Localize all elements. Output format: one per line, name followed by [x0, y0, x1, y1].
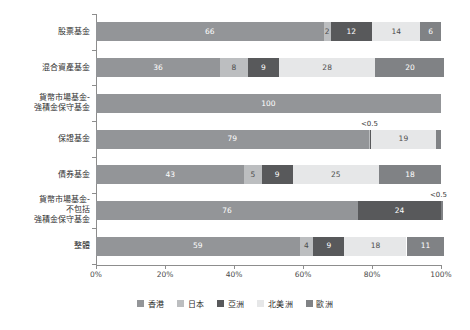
- category-label-line: 債券基金: [58, 170, 90, 180]
- bar-segment: 4: [300, 237, 314, 256]
- bar-value-label: 12: [347, 28, 357, 36]
- bar-value-label: 24: [395, 207, 405, 215]
- bar-value-label: 36: [153, 64, 163, 72]
- bar-value-label: 59: [193, 242, 203, 250]
- legend-swatch-icon: [177, 300, 184, 307]
- bar-value-label: 14: [391, 28, 401, 36]
- bar-segment: 9: [313, 237, 344, 256]
- bar-segment: 18: [379, 165, 441, 184]
- bar-segment: [441, 201, 443, 220]
- bar-value-label: 5: [251, 171, 256, 179]
- bar-value-label: 19: [399, 135, 409, 143]
- legend-label: 日本: [188, 298, 205, 309]
- category-label: 貨幣市場基金-不包括強積金保守基金: [0, 193, 90, 227]
- bar-value-label: 8: [232, 64, 237, 72]
- x-tick-label: 40%: [226, 270, 243, 279]
- bar-segment: 9: [248, 58, 279, 77]
- category-label-line: 不包括: [66, 205, 90, 215]
- x-tickmark: [234, 265, 235, 269]
- category-label-line: 保證基金: [58, 134, 90, 144]
- bar-value-label: 20: [405, 64, 415, 72]
- bar-value-label: 9: [261, 64, 266, 72]
- category-label: 保證基金: [0, 132, 90, 146]
- legend-item[interactable]: 亞洲: [217, 298, 244, 309]
- category-label-column: 股票基金混合資產基金貨幣市場基金-強積金保守基金保證基金債券基金貨幣市場基金-不…: [0, 14, 90, 264]
- x-axis-line: [96, 265, 442, 266]
- x-tickmark: [96, 265, 97, 269]
- bar-segment: 59: [96, 237, 300, 256]
- bar-segment: 43: [96, 165, 244, 184]
- bar-value-label: 4: [304, 242, 309, 250]
- bar-row: 59491811: [96, 237, 441, 256]
- x-tickmark: [303, 265, 304, 269]
- legend-item[interactable]: 香港: [137, 298, 164, 309]
- bar-segment: 79: [96, 130, 369, 149]
- x-tick-label: 60%: [295, 270, 312, 279]
- bar-row: 43592518: [96, 165, 441, 184]
- category-label: 整體: [0, 239, 90, 253]
- bar-value-label: 25: [331, 171, 341, 179]
- legend-label: 北美洲: [268, 298, 293, 309]
- x-tick-label: 80%: [364, 270, 381, 279]
- bar-value-label: 18: [405, 171, 415, 179]
- bar-segment: 9: [262, 165, 293, 184]
- legend-swatch-icon: [306, 300, 313, 307]
- category-label: 混合資產基金: [0, 61, 90, 75]
- legend-label: 香港: [148, 298, 165, 309]
- stacked-bar-chart: 股票基金混合資產基金貨幣市場基金-強積金保守基金保證基金債券基金貨幣市場基金-不…: [0, 0, 470, 330]
- value-annotation: <0.5: [430, 192, 447, 199]
- bar-row: 7624: [96, 201, 441, 220]
- bar-value-label: 9: [275, 171, 280, 179]
- bar-segment: 76: [96, 201, 358, 220]
- x-tickmark: [372, 265, 373, 269]
- bar-segment: 66: [96, 22, 324, 41]
- category-label-line: 混合資產基金: [42, 63, 90, 73]
- category-label-line: 強積金保守基金: [34, 215, 90, 225]
- bar-segment: 100: [96, 94, 441, 113]
- plot-area: 6621214636892820100791943592518762459491…: [96, 14, 441, 264]
- x-tickmark: [441, 265, 442, 269]
- legend-swatch-icon: [217, 300, 224, 307]
- category-label: 股票基金: [0, 25, 90, 39]
- bar-value-label: 79: [228, 135, 238, 143]
- category-label-line: 整體: [74, 241, 90, 251]
- bar-row: 100: [96, 94, 441, 113]
- bar-segment: 14: [372, 22, 420, 41]
- legend-swatch-icon: [137, 300, 144, 307]
- chart-legend: 香港日本亞洲北美洲歐洲: [0, 298, 470, 309]
- bar-value-label: 66: [205, 28, 215, 36]
- bar-segment: [436, 130, 441, 149]
- bar-value-label: 100: [261, 100, 275, 108]
- bar-segment: 2: [324, 22, 331, 41]
- bar-segment: 20: [375, 58, 444, 77]
- x-tickmark: [165, 265, 166, 269]
- bar-segment: 24: [358, 201, 441, 220]
- legend-item[interactable]: 日本: [177, 298, 204, 309]
- bar-value-label: 76: [222, 207, 232, 215]
- category-label-line: 股票基金: [58, 27, 90, 37]
- bar-value-label: 6: [428, 28, 433, 36]
- category-label: 貨幣市場基金-強積金保守基金: [0, 91, 90, 115]
- legend-item[interactable]: 歐洲: [306, 298, 333, 309]
- bar-segment: 28: [279, 58, 376, 77]
- legend-item[interactable]: 北美洲: [257, 298, 292, 309]
- bar-value-label: 43: [165, 171, 175, 179]
- bar-segment: 36: [96, 58, 220, 77]
- bar-value-label: 18: [371, 242, 381, 250]
- bar-row: 36892820: [96, 58, 441, 77]
- bar-value-label: 11: [421, 242, 431, 250]
- legend-label: 歐洲: [316, 298, 333, 309]
- bar-value-label: 9: [326, 242, 331, 250]
- bar-row: 7919: [96, 130, 441, 149]
- bar-row: 66212146: [96, 22, 441, 41]
- value-annotation: <0.5: [361, 121, 378, 128]
- category-label: 債券基金: [0, 168, 90, 182]
- category-label-line: 強積金保守基金: [34, 103, 90, 113]
- x-tick-label: 20%: [157, 270, 174, 279]
- bar-segment: 11: [407, 237, 445, 256]
- bar-segment: 19: [371, 130, 437, 149]
- category-label-line: 貨幣市場基金-: [39, 93, 90, 103]
- bar-segment: 6: [420, 22, 441, 41]
- bar-segment: 25: [293, 165, 379, 184]
- bar-segment: 18: [344, 237, 406, 256]
